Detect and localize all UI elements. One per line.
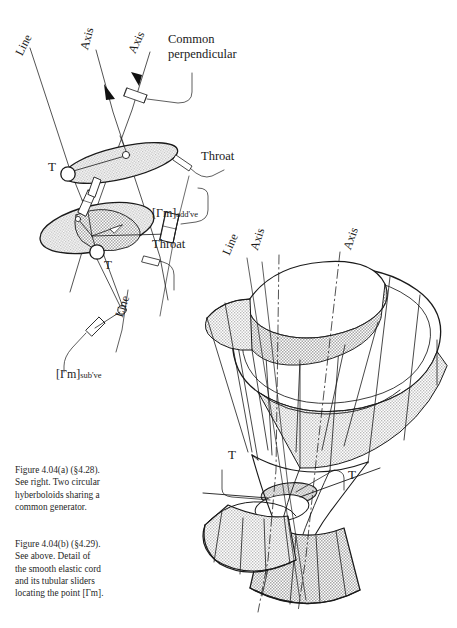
technical-illustration <box>0 0 457 628</box>
caption-figure-a: Figure 4.04(a) (§4.28). See right. Two c… <box>15 464 190 513</box>
upper-throat-ellipse <box>61 134 181 191</box>
caption-figure-b: Figure 4.04(b) (§4.29). See above. Detai… <box>15 538 190 599</box>
node-t-lower <box>90 245 104 259</box>
gm-addve-base: [Γm] <box>152 206 176 220</box>
gm-subve-sub: sub've <box>80 370 101 380</box>
node-t-upper <box>61 167 75 181</box>
label-throat-lower: Throat <box>152 238 185 251</box>
tubular-slider-subve <box>86 317 105 336</box>
label-gm-subve: [Γm]sub've <box>56 368 102 380</box>
gm-addve-sub: add've <box>176 209 198 219</box>
label-throat-upper: Throat <box>201 150 234 163</box>
label-t-lower: T <box>104 258 112 271</box>
common-perpendicular-slider <box>124 88 147 103</box>
figure-page: Line Axis Axis Common perpendicular Thro… <box>0 0 457 628</box>
label-t-upper: T <box>48 160 56 173</box>
hyperboloid-figure-group <box>203 252 447 612</box>
label-hyp-t-left: T <box>228 448 236 461</box>
label-common-perpendicular: Common perpendicular <box>168 32 237 61</box>
label-hyp-t-right: T <box>348 468 356 481</box>
gm-subve-base: [Γm] <box>56 367 80 381</box>
label-gm-addve: [Γm]add've <box>152 207 198 219</box>
